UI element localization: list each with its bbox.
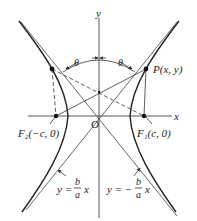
segment-P-F1: [144, 69, 146, 116]
asymptote-right-pointer: [134, 168, 140, 176]
F1-pointer: [146, 117, 152, 124]
point-P: [144, 67, 149, 72]
svg-text:y =: y =: [56, 183, 72, 195]
point-P-label: P(x, y): [152, 63, 183, 76]
angle-label-right: θ: [118, 57, 123, 68]
focus-F2: [54, 114, 58, 118]
focus-F1: [142, 114, 146, 118]
svg-text:a: a: [75, 189, 80, 200]
point-Q: [50, 67, 55, 72]
svg-text:x: x: [144, 183, 150, 195]
origin-label: O: [91, 118, 99, 130]
segment-P-F2: [56, 69, 146, 116]
svg-text:a: a: [136, 189, 141, 200]
asymptote-left-equation: y = b a x: [56, 176, 89, 200]
asymptote-right-equation: y = − b a x: [106, 176, 150, 200]
y-axis-label: y: [95, 7, 101, 19]
hyperbola-diagram: y x O θ θ P(x, y) F₂(−c, 0) F₁(c, 0) y =…: [0, 0, 197, 221]
svg-text:b: b: [136, 176, 141, 187]
focus-F1-label: F₁(c, 0): [136, 127, 171, 140]
asymptote-left-pointer: [58, 170, 66, 176]
svg-text:y = −: y = −: [106, 183, 132, 195]
focus-F2-label: F₂(−c, 0): [17, 127, 60, 140]
x-axis-label: x: [173, 110, 179, 122]
intersection-dot: [98, 91, 100, 93]
F2-pointer: [50, 117, 55, 124]
angle-label-left: θ: [74, 57, 79, 68]
svg-text:x: x: [83, 183, 89, 195]
svg-text:b: b: [75, 176, 80, 187]
